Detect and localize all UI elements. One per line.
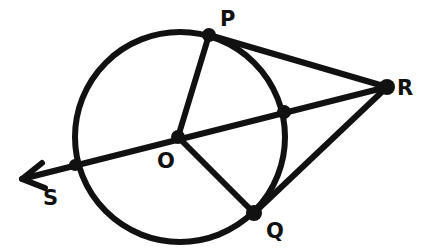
- point-P: [202, 28, 216, 42]
- radius-OQ: [178, 137, 254, 213]
- point-R: [379, 79, 395, 95]
- point-Q: [246, 205, 262, 221]
- label-R: R: [397, 76, 413, 100]
- label-Q: Q: [266, 219, 284, 243]
- tangent-PR: [209, 35, 387, 87]
- label-S: S: [43, 186, 58, 210]
- geometry-diagram: P R Q S O: [0, 0, 423, 252]
- label-P: P: [220, 7, 235, 31]
- point-S: [69, 159, 81, 171]
- point-O: [171, 130, 185, 144]
- radius-OP: [178, 35, 209, 137]
- label-O: O: [157, 149, 175, 173]
- point-intersection: [277, 105, 291, 119]
